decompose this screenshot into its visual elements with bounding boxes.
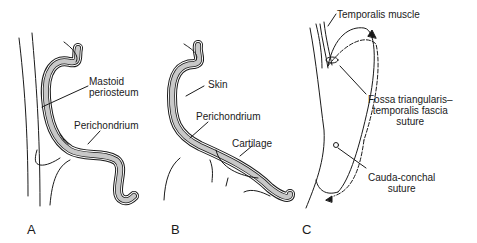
- label-cartilage: Cartilage: [232, 138, 272, 149]
- label-skin: Skin: [208, 79, 227, 90]
- label-temporalis-muscle: Temporalis muscle: [337, 9, 420, 20]
- panel-b-drawing: [164, 44, 290, 200]
- label-perichondrium-a: Perichondrium: [74, 120, 138, 131]
- panel-letter-c: C: [302, 222, 311, 237]
- panel-letter-a: A: [27, 222, 36, 237]
- label-cauda-conchal-suture: Cauda-conchal suture: [368, 172, 435, 194]
- label-mastoid-periosteum: Mastoid periosteum: [89, 76, 138, 98]
- label-perichondrium-b: Perichondrium: [196, 111, 260, 122]
- panel-letter-b: B: [171, 222, 180, 237]
- label-fossa-suture: Fossa triangularis– temporalis fascia su…: [368, 94, 452, 127]
